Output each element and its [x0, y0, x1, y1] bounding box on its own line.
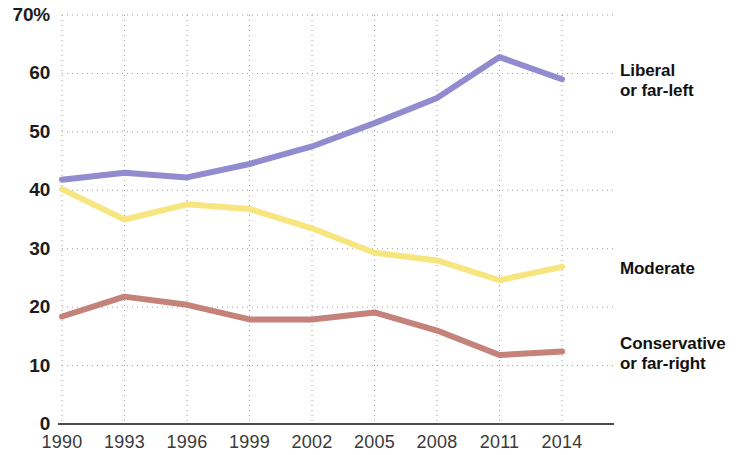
- y-tick-label: 50: [0, 121, 50, 143]
- x-tick-label: 2014: [522, 432, 602, 453]
- y-tick-label: 10: [0, 355, 50, 377]
- y-tick-label: 40: [0, 179, 50, 201]
- series-label-0: Liberal or far-left: [620, 61, 694, 101]
- series-line-1: [62, 189, 562, 280]
- series-label-1: Moderate: [620, 259, 695, 279]
- y-tick-label: 30: [0, 238, 50, 260]
- line-chart: 010203040506070% 19901993199619992002200…: [0, 0, 744, 455]
- y-tick-label: 60: [0, 62, 50, 84]
- y-tick-label: 20: [0, 296, 50, 318]
- series-label-2: Conservative or far-right: [620, 334, 726, 374]
- y-tick-label: 70%: [0, 4, 50, 26]
